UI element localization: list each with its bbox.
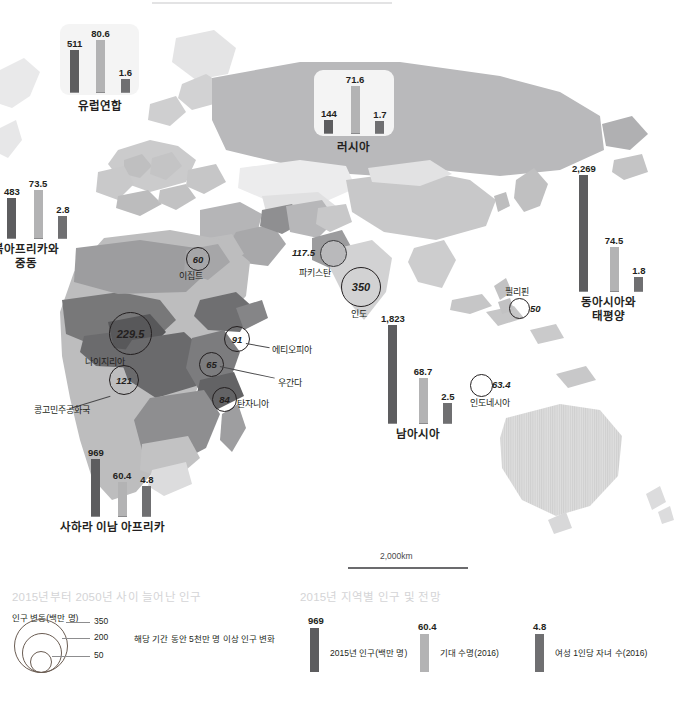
sa-bar-life-expectancy: 68.7: [414, 366, 433, 423]
eap-value-life-expectancy: 74.5: [605, 235, 624, 246]
sa-value-population: 1,823: [381, 313, 405, 324]
country-label-philippines: 필리핀: [505, 285, 529, 298]
legend-item-2-bar: [420, 634, 429, 672]
bubble-indonesia[interactable]: [470, 374, 493, 397]
russia-value-population: 144: [321, 108, 337, 119]
country-label-drc: 콩고민주공화국: [34, 403, 90, 416]
legend-right-title: 2015년 지역별 인구 및 전망: [300, 588, 676, 604]
legend-tick-200: [62, 638, 90, 639]
eap-bar-life-expectancy: 74.5: [605, 235, 624, 291]
sa-bar-card: 1,823 68.7 2.5: [381, 313, 455, 423]
mena-bar-card: 483 73.5 2.8: [4, 178, 70, 238]
eu-value-life-expectancy: 80.6: [91, 28, 110, 39]
legend-regional-series: 2015년 지역별 인구 및 전망 969 2015년 인구(백만 명) 60.…: [300, 588, 676, 688]
bubble-philippines[interactable]: [509, 298, 530, 319]
scale-bar-label: 2,000km: [380, 551, 413, 561]
ssa-value-population: 969: [88, 447, 104, 458]
sa-value-fertility: 2.5: [441, 391, 454, 402]
infographic-map: 511 80.6 1.6 유럽연합 144 71.6: [0, 0, 680, 703]
sa-value-life-expectancy: 68.7: [414, 366, 433, 377]
eu-bar-card: 511 80.6 1.6: [60, 24, 139, 95]
eap-value-population: 2,269: [572, 163, 596, 174]
ssa-bar-fertility: 4.8: [140, 474, 153, 516]
country-label-ethiopia: 에티오피아: [272, 343, 312, 356]
bubble-ethiopia[interactable]: 91: [224, 326, 250, 352]
legend-ticklabel-200: 200: [94, 632, 108, 642]
russia-bar-card: 144 71.6 1.7: [314, 70, 394, 136]
bubble-india[interactable]: 350: [341, 267, 381, 307]
legend-left-subtitle: 인구 변동(백만 명): [12, 611, 292, 623]
region-callout-ssa: 969 60.4 4.8 사하라 이남 아프리카: [88, 447, 165, 534]
country-label-egypt: 이집트: [179, 269, 203, 282]
legend-item-3-value: 4.8: [533, 621, 546, 632]
russia-bar-fertility: 1.7: [373, 109, 386, 133]
region-callout-mena: 483 73.5 2.8 북아프리카와 중동: [4, 178, 70, 270]
country-label-india: 인도: [351, 307, 367, 320]
mena-value-fertility: 2.8: [56, 204, 69, 215]
russia-value-fertility: 1.7: [373, 109, 386, 120]
eap-bar-fertility: 1.8: [632, 265, 645, 291]
region-callout-south-asia: 1,823 68.7 2.5 남아시아: [381, 313, 455, 441]
mena-bar-life-expectancy: 73.5: [29, 178, 48, 238]
top-divider: [152, 2, 392, 4]
legend-ticklabel-350: 350: [94, 616, 108, 626]
bubble-uganda[interactable]: 65: [199, 352, 224, 377]
ssa-region-label: 사하라 이남 아프리카: [60, 520, 165, 534]
bubble-nigeria[interactable]: 229.5: [109, 312, 152, 355]
russia-bar-population: 144: [321, 108, 337, 133]
country-label-tanzania: 탄자니아: [237, 397, 269, 410]
mena-bar-fertility: 2.8: [56, 204, 69, 238]
russia-value-life-expectancy: 71.6: [346, 74, 365, 85]
legend-item-3-text: 여성 1인당 자녀 수(2016): [555, 646, 647, 658]
legend-circle-50: [30, 651, 52, 673]
eap-value-fertility: 1.8: [632, 265, 645, 276]
legend-item-1-bar: [310, 628, 319, 672]
ssa-bar-population: 969: [88, 447, 104, 516]
region-callout-eap: 2,269 74.5 1.8 동아시아와 태평양: [572, 163, 646, 323]
legend-left-title: 2015년부터 2050년 사이 늘어난 인구: [12, 588, 292, 604]
eu-region-label: 유럽연합: [60, 99, 139, 113]
ssa-bar-card: 969 60.4 4.8: [88, 447, 165, 516]
country-label-indonesia: 인도네시아: [470, 396, 510, 409]
bubble-value-pakistan: 117.5: [292, 247, 315, 258]
bubble-pakistan[interactable]: [320, 240, 347, 267]
eap-region-label: 동아시아와 태평양: [572, 295, 646, 323]
region-callout-eu: 511 80.6 1.6 유럽연합: [60, 24, 139, 113]
mena-region-label-line2: 중동: [0, 256, 70, 270]
legend-tick-50: [52, 656, 90, 657]
legend-item-2-value: 60.4: [418, 621, 437, 632]
eap-bar-population: 2,269: [572, 163, 596, 291]
ssa-value-fertility: 4.8: [140, 474, 153, 485]
sa-region-label: 남아시아: [381, 427, 455, 441]
mena-value-population: 483: [4, 186, 20, 197]
russia-region-label: 러시아: [314, 140, 394, 154]
bubble-drc[interactable]: 121: [109, 365, 139, 395]
legend-item-1-text: 2015년 인구(백만 명): [330, 646, 407, 658]
legend-item-3-bar: [535, 634, 544, 672]
eu-bar-fertility: 1.6: [119, 67, 132, 92]
mena-bar-population: 483: [4, 186, 20, 238]
legend-left-note: 해당 기간 동안 5천만 명 이상 인구 변화: [134, 632, 275, 644]
legend-ticklabel-50: 50: [94, 650, 103, 660]
legend-tick-350: [66, 622, 90, 623]
region-callout-russia: 144 71.6 1.7 러시아: [314, 70, 394, 154]
bubble-value-philippines: 50: [530, 303, 541, 314]
bubble-egypt[interactable]: 60: [186, 247, 210, 271]
eap-bar-card: 2,269 74.5 1.8: [572, 163, 646, 291]
eu-bar-population: 511: [67, 38, 82, 92]
legend-population-growth: 2015년부터 2050년 사이 늘어난 인구 인구 변동(백만 명) 350 …: [12, 588, 292, 688]
sa-bar-population: 1,823: [381, 313, 405, 423]
eap-region-label-line2: 태평양: [572, 309, 646, 323]
country-label-uganda: 우간다: [278, 376, 302, 389]
bubble-tanzania[interactable]: 84: [212, 387, 237, 412]
eu-bar-life-expectancy: 80.6: [91, 28, 110, 92]
russia-bar-life-expectancy: 71.6: [346, 74, 365, 133]
country-label-pakistan: 파키스탄: [299, 266, 331, 279]
mena-value-life-expectancy: 73.5: [29, 178, 48, 189]
sa-bar-fertility: 2.5: [441, 391, 454, 423]
eu-value-population: 511: [67, 38, 82, 49]
ssa-bar-life-expectancy: 60.4: [113, 470, 132, 516]
ssa-value-life-expectancy: 60.4: [113, 470, 132, 481]
legend-item-1-value: 969: [308, 615, 324, 626]
legend-item-2-text: 기대 수명(2016): [440, 646, 499, 658]
